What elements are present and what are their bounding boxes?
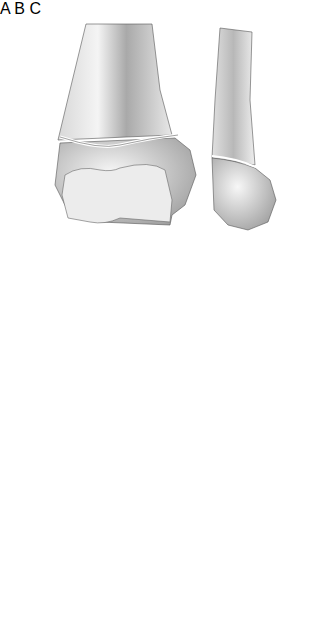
panel-a-lateral-bone (212, 28, 276, 230)
illustration (0, 0, 329, 631)
panel-a-anterior-bone (55, 24, 196, 225)
